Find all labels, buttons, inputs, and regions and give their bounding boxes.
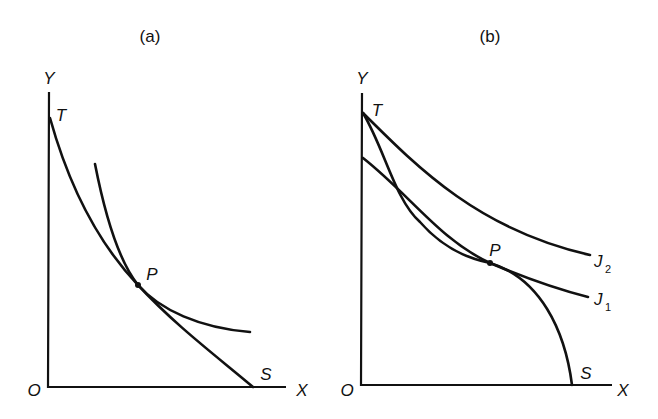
panel-b-indifference-curve-j2 xyxy=(363,113,590,255)
panel-a-s-label: S xyxy=(260,365,272,384)
panel-a-point-p xyxy=(135,282,141,288)
panel-b-point-p xyxy=(487,260,493,266)
panel-a-title: (a) xyxy=(140,27,161,46)
panel-b-axes xyxy=(361,93,612,385)
panel-b-origin-label: O xyxy=(340,381,353,400)
panel-a-indifference-curve xyxy=(95,164,250,332)
panel-a-transformation-curve xyxy=(50,118,253,387)
diagram: (a) Y X O T P S (b) Y X O T P S J 2 xyxy=(0,0,658,419)
panel-b-t-label: T xyxy=(372,101,384,120)
panel-a-t-label: T xyxy=(56,106,68,125)
panel-a-p-label: P xyxy=(146,265,158,284)
svg-text:2: 2 xyxy=(605,263,611,275)
panel-b-j1-label: J 1 xyxy=(593,290,611,313)
panel-b: (b) Y X O T P S J 2 J 1 xyxy=(340,27,629,400)
svg-text:J: J xyxy=(593,252,603,271)
panel-a-x-label: X xyxy=(295,381,308,400)
panel-a-origin-label: O xyxy=(27,381,40,400)
panel-a-axes xyxy=(48,92,286,387)
panel-b-x-label: X xyxy=(616,381,629,400)
panel-a-y-label: Y xyxy=(43,69,56,88)
panel-a: (a) Y X O T P S xyxy=(27,27,308,400)
panel-b-j2-label: J 2 xyxy=(593,252,611,275)
panel-b-p-label: P xyxy=(489,241,501,260)
svg-text:1: 1 xyxy=(605,301,611,313)
svg-text:J: J xyxy=(593,290,603,309)
panel-b-title: (b) xyxy=(480,27,501,46)
panel-b-indifference-curve-j1 xyxy=(363,158,588,297)
panel-b-y-label: Y xyxy=(356,69,369,88)
panel-b-s-label: S xyxy=(580,364,592,383)
